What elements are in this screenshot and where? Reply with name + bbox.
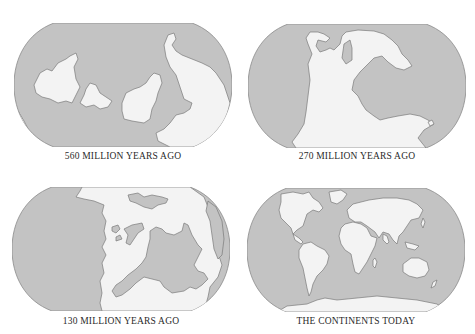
world-map-130ma: [12, 187, 230, 311]
caption-560ma: 560 MILLION YEARS AGO: [3, 151, 243, 161]
caption-270ma: 270 MILLION YEARS AGO: [237, 151, 475, 161]
world-map-270ma: [248, 24, 466, 148]
australia: [403, 258, 429, 278]
world-map-today: [247, 188, 465, 312]
world-map-560ma: [14, 23, 232, 147]
caption-130ma: 130 MILLION YEARS AGO: [1, 316, 241, 326]
caption-today: THE CONTINENTS TODAY: [236, 316, 475, 326]
